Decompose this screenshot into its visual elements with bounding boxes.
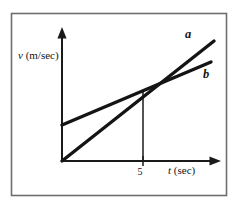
x-tick-label-5: 5: [138, 166, 143, 177]
graph-canvas: v (m/sec) t (sec) 5 a b: [0, 0, 239, 210]
y-axis-label: v (m/sec): [18, 49, 59, 62]
x-axis-label-unit: (sec): [174, 164, 196, 177]
curve-label-a: a: [185, 27, 191, 41]
y-axis-label-unit: (m/sec): [26, 49, 59, 62]
velocity-time-figure: v (m/sec) t (sec) 5 a b: [0, 0, 239, 210]
x-axis-label: t (sec): [168, 164, 196, 177]
curve-label-b: b: [203, 67, 209, 81]
